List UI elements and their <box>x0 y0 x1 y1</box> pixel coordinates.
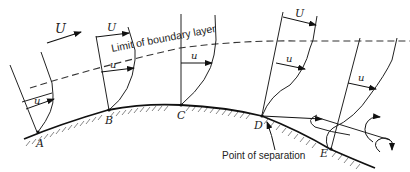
svg-text:u: u <box>34 95 40 106</box>
svg-text:U: U <box>107 21 117 34</box>
velocity-profile-a: u <box>10 52 54 132</box>
station-label-c: C <box>177 109 186 122</box>
eddy-upper-icon <box>365 117 380 142</box>
station-label-d: D <box>253 119 263 132</box>
svg-text:u: u <box>110 59 116 70</box>
eddy-lower-icon <box>375 138 392 152</box>
svg-text:u: u <box>191 50 197 61</box>
svg-text:u: u <box>358 72 364 83</box>
svg-text:u: u <box>286 53 292 64</box>
recirculation-loop-d <box>310 115 350 135</box>
separation-label: Point of separation <box>222 150 305 161</box>
velocity-profile-b: U u <box>96 21 135 110</box>
station-label-e: E <box>319 147 328 160</box>
svg-text:U: U <box>295 7 305 20</box>
station-label-a: A <box>35 137 44 150</box>
boundary-layer-label: Limit of boundary layer <box>110 22 217 54</box>
boundary-layer-diagram: U u U u u U u <box>0 0 410 172</box>
free-stream-label: U <box>55 21 67 36</box>
velocity-profile-d: U u <box>262 7 317 116</box>
separated-shear-layer <box>322 119 390 140</box>
station-label-b: B <box>104 114 113 127</box>
